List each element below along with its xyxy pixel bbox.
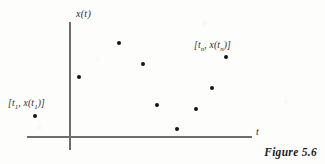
label-text: )] bbox=[38, 98, 45, 108]
data-point bbox=[194, 107, 198, 111]
data-point bbox=[210, 86, 214, 90]
label-text: [t bbox=[8, 98, 15, 108]
y-axis-line bbox=[69, 22, 71, 150]
scatter-plot: x(t) t [t1, x(t1)][tn, x(tn)] bbox=[0, 0, 325, 164]
x-axis-line bbox=[27, 136, 252, 138]
figure-caption: Figure 5.6 bbox=[264, 146, 317, 158]
data-point bbox=[224, 55, 228, 59]
x-axis-label: t bbox=[256, 126, 259, 137]
data-point bbox=[141, 62, 145, 66]
data-point bbox=[155, 103, 159, 107]
data-point bbox=[77, 75, 81, 79]
label-text: )] bbox=[224, 40, 231, 50]
data-point bbox=[33, 114, 37, 118]
y-axis-label: x(t) bbox=[76, 8, 91, 19]
first-sample-label: [t1, x(t1)] bbox=[8, 98, 45, 110]
nth-sample-label: [tn, x(tn)] bbox=[194, 40, 231, 52]
label-text: , x(t bbox=[204, 40, 220, 50]
data-point bbox=[117, 41, 121, 45]
label-text: , x(t bbox=[18, 98, 34, 108]
label-text: [t bbox=[194, 40, 201, 50]
figure-page: x(t) t [t1, x(t1)][tn, x(tn)] Figure 5.6 bbox=[0, 0, 325, 164]
data-point bbox=[175, 127, 179, 131]
